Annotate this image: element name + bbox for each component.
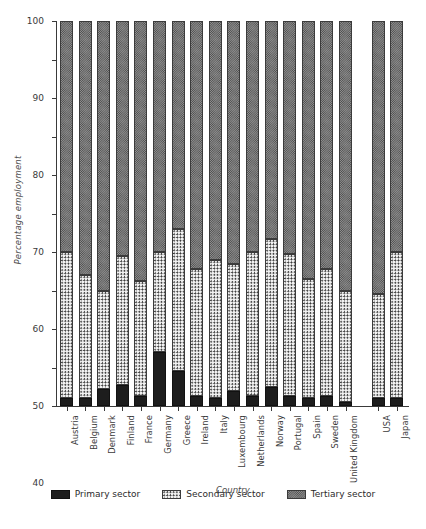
segment-secondary (97, 291, 110, 389)
segment-primary (209, 398, 222, 406)
segment-primary (283, 396, 296, 406)
bar-united-kingdom[interactable] (339, 21, 352, 406)
x-tick (346, 406, 347, 411)
segment-tertiary (209, 21, 222, 260)
segment-primary (372, 398, 385, 406)
y-tick-label: 40 (33, 478, 44, 488)
x-tick-label: Norway (275, 415, 285, 447)
x-tick-label: USA (382, 415, 392, 432)
y-tick: 60 (52, 175, 57, 176)
x-tick (308, 406, 309, 411)
segment-tertiary (246, 21, 259, 252)
legend-item[interactable]: Secondary sector (162, 489, 264, 499)
segment-secondary (209, 260, 222, 399)
y-tick-label: 90 (33, 93, 44, 103)
bar-france[interactable] (134, 21, 147, 406)
segment-secondary (60, 252, 73, 398)
legend-swatch-tertiary (287, 490, 306, 499)
segment-secondary (153, 252, 166, 352)
segment-primary (134, 396, 147, 406)
y-axis-label: Percentage employment (13, 140, 23, 280)
y-tick: 40 (52, 252, 57, 253)
x-tick-label: Greece (182, 415, 192, 445)
x-tick-label: United Kingdom (349, 415, 359, 483)
segment-secondary (390, 252, 403, 398)
x-tick (197, 406, 198, 411)
y-tick: 70 (52, 137, 57, 138)
bar-norway[interactable] (265, 21, 278, 406)
segment-tertiary (283, 21, 296, 254)
segment-tertiary (172, 21, 185, 229)
bar-portugal[interactable] (283, 21, 296, 406)
y-tick-label: 80 (33, 170, 44, 180)
x-tick (160, 406, 161, 411)
x-tick (141, 406, 142, 411)
segment-tertiary (60, 21, 73, 252)
segment-secondary (172, 229, 185, 371)
legend-item[interactable]: Tertiary sector (287, 489, 376, 499)
bar-austria[interactable] (60, 21, 73, 406)
segment-primary (116, 385, 129, 406)
bar-finland[interactable] (116, 21, 129, 406)
x-tick (122, 406, 123, 411)
bar-spain[interactable] (302, 21, 315, 406)
x-tick (104, 406, 105, 411)
segment-primary (227, 391, 240, 406)
x-tick-label: Netherlands (256, 415, 266, 467)
bar-italy[interactable] (209, 21, 222, 406)
segment-primary (79, 398, 92, 406)
legend-item[interactable]: Primary sector (51, 489, 141, 499)
x-tick (397, 406, 398, 411)
segment-secondary (302, 279, 315, 398)
y-tick: 0 (52, 406, 57, 407)
bar-ireland[interactable] (190, 21, 203, 406)
segment-tertiary (227, 21, 240, 264)
legend-label: Tertiary sector (311, 489, 376, 499)
bar-luxembourg[interactable] (227, 21, 240, 406)
segment-secondary (79, 275, 92, 398)
bar-sweden[interactable] (320, 21, 333, 406)
segment-secondary (190, 269, 203, 396)
segment-tertiary (302, 21, 315, 279)
y-tick: 20 (52, 329, 57, 330)
bar-japan[interactable] (390, 21, 403, 406)
segment-secondary (246, 252, 259, 396)
bar-germany[interactable] (153, 21, 166, 406)
x-tick-label: Germany (163, 415, 173, 454)
segment-primary (60, 398, 73, 406)
y-tick: 50 (52, 214, 57, 215)
segment-tertiary (134, 21, 147, 281)
segment-secondary (116, 256, 129, 385)
bar-netherlands[interactable] (246, 21, 259, 406)
bar-usa[interactable] (372, 21, 385, 406)
bar-belgium[interactable] (79, 21, 92, 406)
segment-secondary (339, 291, 352, 403)
plot-area: 0102030405060708090100 AustriaBelgiumDen… (57, 21, 409, 406)
legend-swatch-primary (51, 490, 70, 499)
bar-denmark[interactable] (97, 21, 110, 406)
segment-primary (390, 398, 403, 406)
x-tick-label: Ireland (200, 415, 210, 444)
x-tick-label: Luxembourg (237, 415, 247, 468)
bar-greece[interactable] (172, 21, 185, 406)
chart-legend: Primary sectorSecondary sectorTertiary s… (0, 489, 426, 499)
x-tick (253, 406, 254, 411)
y-tick-label: 100 (27, 16, 44, 26)
segment-tertiary (265, 21, 278, 239)
segment-primary (97, 389, 110, 406)
segment-tertiary (390, 21, 403, 252)
x-tick (234, 406, 235, 411)
segment-primary (153, 352, 166, 406)
segment-primary (302, 398, 315, 406)
x-tick-label: Japan (400, 415, 410, 439)
y-tick: 10 (52, 368, 57, 369)
segment-primary (320, 396, 333, 406)
segment-tertiary (339, 21, 352, 291)
x-tick (290, 406, 291, 411)
segment-tertiary (153, 21, 166, 252)
segment-primary (265, 387, 278, 406)
segment-secondary (134, 281, 147, 397)
y-tick-label: 60 (33, 324, 44, 334)
y-tick-label: 50 (33, 401, 44, 411)
segment-secondary (372, 294, 385, 398)
